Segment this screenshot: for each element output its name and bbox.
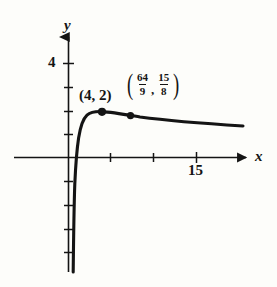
y-axis-tick-label-4: 4 — [48, 55, 56, 70]
data-point-4-2 — [98, 108, 106, 116]
x-axis-tick-label-15: 15 — [188, 163, 203, 178]
data-point-64-9-15-8 — [127, 112, 134, 119]
fraction-64-9: 64 9 — [135, 72, 150, 97]
coordinate-separator: , — [150, 83, 156, 96]
curve-path — [73, 112, 243, 272]
fraction-denominator: 9 — [139, 84, 147, 97]
x-axis-label: x — [255, 149, 263, 164]
fraction-numerator: 15 — [157, 72, 170, 84]
point-label-4-2: (4, 2) — [79, 88, 112, 103]
fraction-15-8: 15 8 — [156, 72, 171, 97]
graph-canvas — [0, 0, 277, 287]
y-axis-label: y — [64, 18, 71, 33]
fraction-denominator: 8 — [160, 84, 168, 97]
graph-figure: y x 4 15 (4, 2) ( 64 9 , 15 8 ) — [0, 0, 277, 287]
open-paren: ( — [127, 73, 133, 95]
point-label-64-9-15-8: ( 64 9 , 15 8 ) — [125, 72, 181, 97]
close-paren: ) — [173, 73, 179, 95]
fraction-numerator: 64 — [136, 72, 149, 84]
